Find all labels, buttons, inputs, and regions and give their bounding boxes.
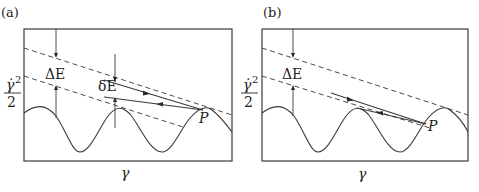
point-p-label-a: P <box>198 110 209 126</box>
trajectory-lower-b <box>357 108 426 124</box>
small-delta-e-label-a: δE <box>98 78 117 94</box>
arrow-down-icon <box>54 53 58 58</box>
arrow-left-icon <box>156 102 163 107</box>
lower-energy-line-b <box>262 76 430 128</box>
trajectory-upper-a <box>104 80 203 110</box>
trajectory-upper-b <box>331 93 426 124</box>
arrow-right-icon <box>143 91 150 96</box>
arrow-up-icon <box>54 85 58 90</box>
svg-text:2: 2 <box>244 94 253 110</box>
y-axis-label-a: γ̇ 2 2 <box>4 74 21 110</box>
arrow-down-icon <box>291 53 295 58</box>
svg-text:γ̇: γ̇ <box>243 77 252 93</box>
delta-e-label-b: ΔE <box>282 66 302 82</box>
panel-label-a: (a) <box>1 5 19 20</box>
svg-text:2: 2 <box>7 94 16 110</box>
y-axis-label-b: γ̇ 2 2 <box>241 74 258 110</box>
point-p-label-b: P <box>427 118 438 134</box>
x-axis-label-a: γ <box>121 165 130 181</box>
svg-text:γ̇: γ̇ <box>6 77 15 93</box>
figure: (a) ΔE δE <box>0 0 479 192</box>
panel-label-b: (b) <box>263 5 281 20</box>
arrow-up-icon <box>291 85 295 90</box>
x-axis-label-b: γ <box>358 166 367 182</box>
delta-e-label-a: ΔE <box>45 66 65 82</box>
panel-b: (b) ΔE P γ̇ 2 <box>241 5 468 182</box>
svg-text:2: 2 <box>252 74 258 85</box>
panel-a: (a) ΔE δE <box>1 5 232 181</box>
arrow-right-icon <box>347 97 354 102</box>
plot-frame-a <box>24 29 232 161</box>
svg-text:2: 2 <box>15 74 21 85</box>
